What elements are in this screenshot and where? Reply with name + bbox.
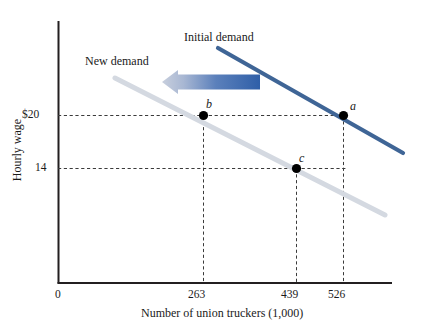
data-point-b <box>199 111 208 120</box>
new-demand-curve <box>115 78 385 215</box>
x-axis-title: Number of union truckers (1,000) <box>141 307 303 319</box>
x-tick-label-526: 526 <box>328 289 345 301</box>
initial-demand-label: Initial demand <box>184 31 254 43</box>
point-label-b: b <box>206 98 212 110</box>
x-tick-label-439: 439 <box>281 289 298 301</box>
y-tick-label-20: $20 <box>22 109 39 121</box>
shift-arrow-icon <box>162 70 260 94</box>
new-demand-label: New demand <box>85 55 149 67</box>
point-label-a: a <box>350 100 356 112</box>
demand-shift-chart: Hourly wage $20 14 0 263 439 526 Number … <box>0 0 422 325</box>
x-tick-label-0: 0 <box>55 289 61 301</box>
y-tick-label-14: 14 <box>35 162 47 174</box>
initial-demand-curve <box>218 48 403 153</box>
y-axis-title: Hourly wage <box>11 119 23 181</box>
chart-canvas <box>0 0 422 325</box>
data-point-c <box>292 164 301 173</box>
data-point-a <box>339 111 348 120</box>
point-label-c: c <box>299 152 304 164</box>
x-tick-label-263: 263 <box>188 289 205 301</box>
guide-lines <box>58 116 347 284</box>
